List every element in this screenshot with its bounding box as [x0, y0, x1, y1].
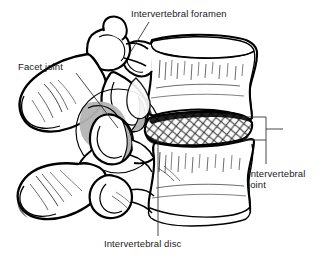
superior-vertebral-body	[147, 35, 257, 119]
label-facet-joint: Facet joint	[18, 61, 63, 72]
inferior-vertebral-body	[149, 139, 254, 226]
label-intervertebral-foramen: Intervertebral foramen	[131, 8, 227, 19]
vertebrae-illustration	[0, 0, 322, 264]
anatomy-figure: Intervertebral foramen Facet joint Inter…	[0, 0, 322, 264]
label-intervertebral-joint: Intervertebral joint	[248, 168, 314, 190]
label-intervertebral-disc: Intervertebral disc	[104, 238, 181, 249]
